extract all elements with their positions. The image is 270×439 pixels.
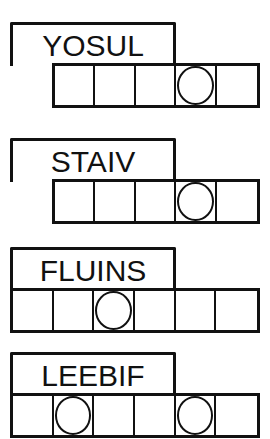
answer-cells [52, 179, 260, 224]
answer-cell[interactable] [95, 182, 135, 221]
answer-cell[interactable] [136, 66, 176, 105]
answer-cell[interactable] [135, 291, 176, 330]
answer-cell-circled[interactable] [176, 396, 217, 435]
circle-marker-icon [55, 396, 92, 435]
circle-marker-icon [95, 291, 132, 330]
answer-cell-circled[interactable] [94, 291, 135, 330]
scrambled-word: FLUINS [10, 247, 176, 291]
answer-cell[interactable] [135, 396, 176, 435]
answer-cell[interactable] [94, 396, 135, 435]
answer-cells [10, 393, 260, 438]
answer-cell[interactable] [55, 66, 95, 105]
answer-cell-circled[interactable] [54, 396, 95, 435]
answer-cell[interactable] [217, 182, 257, 221]
circle-marker-icon [177, 66, 213, 105]
answer-cells [10, 288, 260, 333]
answer-cells [52, 63, 260, 108]
scrambled-word: YOSUL [10, 22, 176, 66]
answer-cell[interactable] [13, 396, 54, 435]
answer-cell[interactable] [216, 396, 257, 435]
answer-cell[interactable] [216, 291, 257, 330]
scrambled-word: STAIV [10, 138, 176, 182]
answer-cell[interactable] [176, 291, 217, 330]
answer-cell[interactable] [13, 291, 54, 330]
answer-cell-circled[interactable] [176, 66, 216, 105]
circle-marker-icon [177, 182, 213, 221]
answer-cell[interactable] [55, 182, 95, 221]
circle-marker-icon [177, 396, 214, 435]
answer-cell-circled[interactable] [176, 182, 216, 221]
answer-cell[interactable] [217, 66, 257, 105]
scrambled-word: LEEBIF [10, 352, 176, 396]
answer-cell[interactable] [54, 291, 95, 330]
answer-cell[interactable] [136, 182, 176, 221]
answer-cell[interactable] [95, 66, 135, 105]
